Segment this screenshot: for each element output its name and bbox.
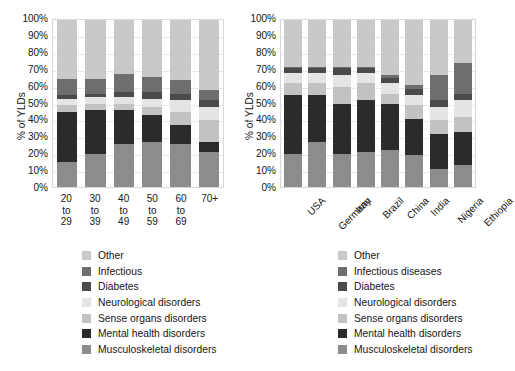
stacked-bar[interactable] xyxy=(357,20,375,187)
bar-segment xyxy=(114,110,134,143)
y-axis-tick: 0% xyxy=(228,183,276,193)
bar-segment xyxy=(284,154,302,187)
y-axis-tick: 90% xyxy=(0,31,48,41)
legend-swatch-icon xyxy=(338,329,347,338)
legend-swatch-icon xyxy=(338,282,347,291)
bar-segment xyxy=(454,165,472,187)
bar-slot xyxy=(402,20,426,187)
bar-slot xyxy=(330,20,354,187)
legend-item-sense-organs[interactable]: Sense organs disorders xyxy=(82,310,216,326)
stacked-bar[interactable] xyxy=(308,20,326,187)
legend-label: Other xyxy=(98,250,124,261)
stacked-bar[interactable] xyxy=(381,20,399,187)
plot-area-age: % of YLDs 100%90%80%70%60%50%40%30%20%10… xyxy=(0,0,228,240)
y-axis-tick: 50% xyxy=(228,99,276,109)
legend-item-infectious[interactable]: Infectious diseases xyxy=(338,264,472,280)
bar-slot xyxy=(427,20,451,187)
bar-segment xyxy=(430,134,448,169)
bar-group-country xyxy=(281,20,475,187)
bar-segment xyxy=(284,83,302,95)
stacked-bar[interactable] xyxy=(454,20,472,187)
legend-swatch-icon xyxy=(82,298,91,307)
y-axis-tick: 30% xyxy=(228,132,276,142)
bar-segment xyxy=(357,73,375,83)
stacked-bar[interactable] xyxy=(170,20,190,187)
legend-item-neurological[interactable]: Neurological disorders xyxy=(82,295,216,311)
y-axis-tick: 60% xyxy=(0,82,48,92)
bar-segment xyxy=(333,75,351,87)
bar-segment xyxy=(57,99,77,106)
stacked-bar[interactable] xyxy=(284,20,302,187)
legend-swatch-icon xyxy=(82,329,91,338)
legend-label: Musculoskeletal disorders xyxy=(98,344,216,355)
stacked-bar[interactable] xyxy=(142,20,162,187)
bar-segment xyxy=(170,144,190,187)
bar-segment xyxy=(430,120,448,133)
bar-slot xyxy=(281,20,305,187)
bar-segment xyxy=(199,100,219,107)
bar-segment xyxy=(142,107,162,115)
bar-segment xyxy=(142,142,162,187)
stacked-bar[interactable] xyxy=(199,20,219,187)
bar-segment xyxy=(308,83,326,95)
bar-segment xyxy=(199,152,219,187)
y-axis-tick: 100% xyxy=(228,14,276,24)
legend-item-diabetes[interactable]: Diabetes xyxy=(82,279,216,295)
bar-slot xyxy=(166,20,194,187)
legend-item-diabetes[interactable]: Diabetes xyxy=(338,279,472,295)
legend-label: Neurological disorders xyxy=(354,297,456,308)
stacked-bar[interactable] xyxy=(114,20,134,187)
legend-item-infectious[interactable]: Infectious xyxy=(82,264,216,280)
legend-item-mental-health[interactable]: Mental health disorders xyxy=(82,326,216,342)
legend-item-mental-health[interactable]: Mental health disorders xyxy=(338,326,472,342)
legend-item-musculoskeletal[interactable]: Musculoskeletal disorders xyxy=(82,342,216,358)
y-axis-tick: 10% xyxy=(0,166,48,176)
bar-segment xyxy=(381,83,399,93)
legend-swatch-icon xyxy=(82,282,91,291)
y-axis-tick: 70% xyxy=(228,65,276,75)
bar-segment xyxy=(381,150,399,187)
bar-segment xyxy=(199,142,219,152)
bar-segment xyxy=(430,107,448,120)
bar-segment xyxy=(381,104,399,151)
bar-slot xyxy=(451,20,475,187)
chart-panel-country: % of YLDs 100%90%80%70%60%50%40%30%20%10… xyxy=(228,0,502,371)
legend-swatch-icon xyxy=(338,314,347,323)
bar-slot xyxy=(378,20,402,187)
legend-label: Diabetes xyxy=(354,281,395,292)
bar-segment xyxy=(142,92,162,99)
bar-segment xyxy=(57,112,77,162)
plot-box-country xyxy=(280,19,476,188)
stacked-bar[interactable] xyxy=(430,20,448,187)
stacked-bar[interactable] xyxy=(333,20,351,187)
bar-segment xyxy=(284,20,302,67)
y-axis-tick: 40% xyxy=(0,115,48,125)
bar-segment xyxy=(405,20,423,85)
legend-item-other[interactable]: Other xyxy=(82,248,216,264)
y-axis-tick: 20% xyxy=(0,149,48,159)
bar-segment xyxy=(381,20,399,75)
legend-item-other[interactable]: Other xyxy=(338,248,472,264)
legend-item-musculoskeletal[interactable]: Musculoskeletal disorders xyxy=(338,342,472,358)
bar-group-age xyxy=(53,20,223,187)
bar-segment xyxy=(333,154,351,187)
legend-label: Musculoskeletal disorders xyxy=(354,344,472,355)
legend-item-neurological[interactable]: Neurological disorders xyxy=(338,295,472,311)
legend-label: Sense organs disorders xyxy=(98,313,207,324)
stacked-bar[interactable] xyxy=(405,20,423,187)
stacked-bar[interactable] xyxy=(57,20,77,187)
bar-segment xyxy=(357,20,375,67)
y-axis-tick: 80% xyxy=(0,48,48,58)
legend-item-sense-organs[interactable]: Sense organs disorders xyxy=(338,310,472,326)
bar-segment xyxy=(114,20,134,73)
legend-swatch-icon xyxy=(82,314,91,323)
bar-segment xyxy=(430,100,448,107)
bar-segment xyxy=(170,112,190,125)
bar-segment xyxy=(170,100,190,112)
y-axis-tick: 0% xyxy=(0,183,48,193)
stacked-bar[interactable] xyxy=(85,20,105,187)
legend-age: OtherInfectiousDiabetesNeurological diso… xyxy=(82,248,216,357)
legend-label: Infectious xyxy=(98,266,142,277)
bar-segment xyxy=(114,74,134,92)
